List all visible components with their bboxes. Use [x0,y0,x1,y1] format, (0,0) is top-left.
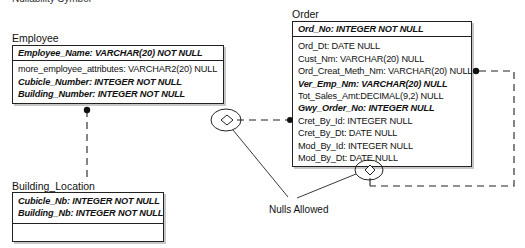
relationship-lines [0,0,525,248]
relationship-dot-icon [287,117,293,123]
order-recursive-relationship[interactable] [355,68,514,186]
employee-building-location-relationship[interactable] [84,107,90,178]
nullable-diamond-icon [365,165,375,175]
nulls-allowed-label: Nulls Allowed [269,204,328,215]
nullable-diamond-icon [221,115,233,125]
nulls-allowed-callout-lines [233,130,356,198]
relationship-dot-icon [84,107,90,113]
employee-order-relationship[interactable] [211,109,293,131]
relationship-dot-icon [473,68,479,74]
